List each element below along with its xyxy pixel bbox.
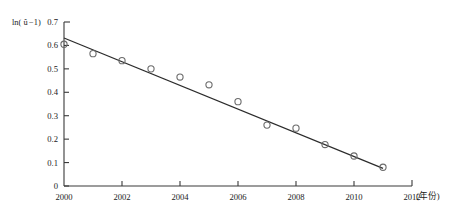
chart-background	[0, 0, 467, 216]
y-axis-tick-label: 0	[54, 181, 58, 191]
x-axis-tick-label: 2010	[345, 192, 362, 202]
y-axis-tick-label: 0.2	[47, 134, 58, 144]
x-axis-unit-label: (年份)	[416, 190, 440, 201]
x-axis-tick-label: 2008	[287, 192, 304, 202]
y-axis-tick-label: 0.6	[47, 40, 58, 50]
y-axis-title-suffix: −1)	[29, 18, 41, 27]
y-axis-title: ln( û −1)	[12, 18, 41, 27]
x-axis-tick-label: 2004	[171, 192, 189, 202]
y-axis-title-prefix: ln(	[12, 18, 22, 27]
y-axis-tick-label: 0.1	[47, 158, 58, 168]
x-axis-tick-label: 2006	[229, 192, 247, 202]
y-axis-tick-label: 0.3	[47, 111, 58, 121]
y-axis-tick-label: 0.5	[47, 64, 58, 74]
x-axis-tick-label: 2002	[113, 192, 130, 202]
chart-container: 00.10.20.30.40.50.60.7 20002002200420062…	[0, 0, 467, 216]
y-axis-tick-label: 0.7	[47, 17, 58, 27]
x-axis-tick-label: 2000	[55, 192, 72, 202]
y-axis-tick-label: 0.4	[47, 87, 58, 97]
scatter-plot-with-trendline: 00.10.20.30.40.50.60.7 20002002200420062…	[0, 0, 467, 216]
